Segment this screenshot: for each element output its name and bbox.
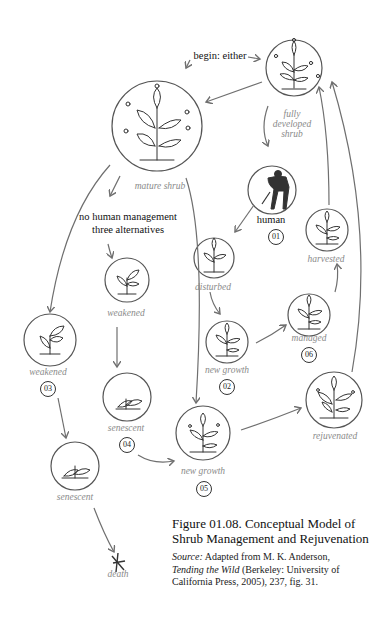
- caption-title: Figure 01.08. Conceptual Model of Shrub …: [172, 516, 386, 546]
- arrow-harvested-to-fully: [319, 87, 329, 205]
- disturbed-plant-icon: [204, 238, 226, 272]
- arrow-fully-to-mature: [206, 82, 262, 102]
- harvested-plant-icon: [316, 211, 340, 244]
- arrow-newgrowth02-to-managed: [256, 325, 286, 343]
- label-new-growth-05: new growth: [181, 467, 225, 477]
- caption-title-line2: Shrub Management and Rejuvenation: [172, 531, 386, 546]
- fully-developed-plant-icon: [274, 38, 319, 89]
- arrow-weakened-left-to-senescent-left: [58, 398, 66, 438]
- label-death: death: [107, 570, 128, 580]
- arrow-begin-to-mature: [186, 60, 190, 68]
- node-senescent-mid-circle: [103, 373, 151, 421]
- label-senescent-mid: senescent: [108, 424, 144, 434]
- label-harvested: harvested: [308, 255, 345, 265]
- begin-label: begin: either: [194, 50, 247, 63]
- label-mature-shrub: mature shrub: [135, 182, 186, 192]
- caption-title-line1: Figure 01.08. Conceptual Model of: [172, 516, 386, 531]
- label-weakened-mid: weakened: [107, 309, 144, 319]
- senescent-left-plant-icon: [62, 466, 90, 478]
- label-managed: managed: [292, 334, 327, 344]
- arrow-human-to-disturbed: [235, 205, 254, 232]
- arrow-rejuvenated-to-fully: [332, 82, 361, 372]
- human-figure-icon: [262, 171, 289, 210]
- source-line2: (Berkeley: University of: [239, 564, 339, 575]
- weakened-mid-plant-icon: [117, 270, 139, 294]
- arrow-newgrowth05-to-rejuvenated: [241, 408, 301, 430]
- source-line1: Adapted from M. K. Anderson,: [203, 551, 330, 562]
- caption-source: Source: Adapted from M. K. Anderson, Ten…: [172, 551, 386, 589]
- label-weakened-left: weakened: [29, 368, 66, 378]
- rejuvenated-plant-icon: [317, 376, 355, 418]
- label-human: human: [257, 214, 286, 227]
- badge-05: 05: [196, 481, 212, 497]
- label-disturbed: disturbed: [195, 283, 231, 293]
- figure-caption: Figure 01.08. Conceptual Model of Shrub …: [172, 516, 386, 589]
- badge-02: 02: [219, 379, 235, 395]
- badge-06: 06: [301, 347, 317, 363]
- senescent-mid-plant-icon: [116, 399, 142, 409]
- arrow-fully-to-human: [264, 106, 268, 146]
- weakened-left-plant-icon: [40, 326, 64, 354]
- label-senescent-left: senescent: [57, 493, 93, 503]
- arrow-mature-to-nohuman: [110, 176, 120, 196]
- label-no-human-line2: three alternatives: [92, 224, 164, 237]
- arrow-senescent-mid-to-newgrowth05: [138, 455, 174, 462]
- arrow-disturbed-to-newgrowth02: [210, 292, 220, 314]
- badge-03: 03: [40, 381, 56, 397]
- label-fully-developed: fully developed shrub: [273, 110, 312, 140]
- managed-plant-icon: [298, 295, 322, 329]
- mature-shrub-plant-icon: [124, 84, 190, 160]
- label-no-human-line1: no human management: [79, 211, 177, 224]
- new-growth-02-plant-icon: [216, 323, 240, 356]
- book-title: Tending the Wild: [172, 564, 239, 575]
- arrow-begin-to-fully: [248, 57, 260, 59]
- arrow-senescent-left-to-death: [94, 508, 114, 552]
- arrow-managed-to-harvested: [335, 264, 338, 292]
- badge-01: 01: [268, 229, 284, 245]
- label-new-growth-02: new growth: [205, 366, 249, 376]
- source-line3: California Press, 2005), 237, fig. 31.: [172, 576, 386, 589]
- label-rejuvenated: rejuvenated: [313, 432, 358, 442]
- new-growth-05-plant-icon: [189, 413, 220, 452]
- arrow-mature-to-weakened-left: [50, 165, 110, 312]
- arrow-nohuman-to-weakened-mid: [108, 244, 112, 258]
- badge-04: 04: [119, 437, 135, 453]
- source-label: Source:: [172, 551, 203, 562]
